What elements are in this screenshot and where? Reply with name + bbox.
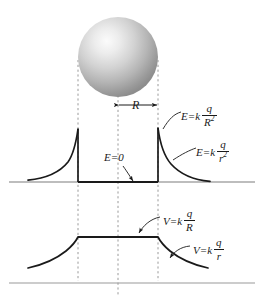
field-outside-lhs: E (196, 147, 203, 158)
field-surface-denominator-base: R (204, 116, 211, 128)
field-inside-equation: E=0 (104, 152, 124, 163)
field-outside-leader (173, 148, 196, 160)
potential-surface-leader (139, 217, 160, 233)
potential-surface-constant: k (177, 216, 182, 227)
potential-outside-fraction: qr (214, 237, 224, 262)
potential-outside-lhs: V (193, 245, 200, 256)
charged-sphere (78, 17, 158, 97)
field-outside-constant: k (210, 147, 215, 158)
field-outside-denominator-exponent: 2 (223, 150, 227, 159)
field-surface-constant: k (195, 111, 200, 122)
field-surface-numerator: q (202, 103, 216, 115)
potential-surface-equation: V=kqR (163, 209, 195, 234)
potential-outside-leader (170, 246, 190, 258)
potential-surface-denominator: R (184, 220, 195, 234)
potential-outside-denominator: r (214, 249, 224, 263)
field-outside-equals: = (203, 147, 210, 158)
field-surface-equals: = (188, 111, 195, 122)
field-outside-denominator: r2 (217, 151, 229, 165)
field-surface-lhs: E (181, 111, 188, 122)
field-surface-denominator-exponent: 2 (211, 114, 215, 123)
field-surface-equation: E=kqR2 (181, 104, 217, 129)
field-surface-leader (163, 112, 181, 129)
field-outside-equation: E=kqr2 (196, 140, 229, 165)
potential-curve-left (28, 237, 78, 268)
potential-outside-numerator: q (214, 237, 224, 249)
potential-surface-equals: = (170, 216, 177, 227)
potential-outside-equals: = (200, 245, 207, 256)
field-surface-fraction: qR2 (202, 103, 216, 128)
field-inside-leader (123, 166, 133, 181)
field-surface-denominator: R2 (202, 115, 216, 129)
field-curve-left (28, 129, 78, 180)
physics-figure: R E=kqR2 E=kqr2 E=0 V=kqR V=kqr (0, 0, 264, 301)
potential-outside-constant: k (207, 245, 212, 256)
field-outside-numerator: q (217, 139, 229, 151)
radius-label: R (132, 98, 139, 113)
potential-surface-numerator: q (184, 208, 195, 220)
field-outside-fraction: qr2 (217, 139, 229, 164)
potential-surface-lhs: V (163, 216, 170, 227)
potential-surface-fraction: qR (184, 208, 195, 233)
potential-outside-equation: V=kqr (193, 238, 224, 263)
